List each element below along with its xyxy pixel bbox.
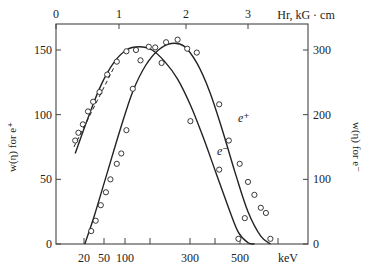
bottom-tick-label: 500	[231, 251, 249, 265]
curve-label: e⁺	[238, 111, 250, 125]
data-point	[263, 210, 268, 215]
data-point	[91, 99, 96, 104]
data-point	[153, 45, 158, 50]
left-tick-label: 150	[34, 43, 52, 57]
right-axis-label: w(η) for e⁻	[350, 122, 363, 172]
left-axis-label: w(η) for e⁺	[6, 122, 19, 172]
data-point	[188, 119, 193, 124]
data-point	[119, 151, 124, 156]
data-series: e⁺e⁻	[73, 37, 273, 244]
chart: 012320501003005000501001500100200300 Hr,…	[0, 0, 367, 274]
data-point	[114, 161, 119, 166]
right-tick-label: 200	[313, 108, 331, 122]
series-positron: e⁺	[85, 37, 273, 244]
data-point	[138, 58, 143, 63]
data-point	[146, 44, 151, 49]
top-tick-label: 1	[116, 7, 122, 21]
data-point	[130, 86, 135, 91]
left-tick-label: 100	[34, 108, 52, 122]
plot-border	[56, 24, 308, 244]
right-tick-label: 100	[313, 172, 331, 186]
data-point	[114, 59, 119, 64]
right-tick-label: 300	[313, 43, 331, 57]
data-point	[163, 40, 168, 45]
data-point	[175, 37, 180, 42]
left-tick-label: 0	[46, 237, 52, 251]
data-point	[76, 130, 81, 135]
top-axis-label: Hr, kG · cm	[277, 8, 335, 22]
data-point	[103, 190, 108, 195]
data-point	[237, 161, 242, 166]
bottom-tick-label: 20	[78, 251, 90, 265]
data-point	[124, 128, 129, 133]
top-tick-label: 0	[53, 7, 59, 21]
data-point	[242, 216, 247, 221]
bottom-tick-label: 50	[98, 251, 110, 265]
top-tick-label: 3	[245, 7, 251, 21]
data-point	[97, 89, 102, 94]
bottom-tick-label: 100	[116, 251, 134, 265]
data-point	[268, 236, 273, 241]
data-point	[258, 205, 263, 210]
data-point	[108, 177, 113, 182]
fit-curve	[85, 43, 271, 244]
top-tick-label: 2	[183, 7, 189, 21]
left-tick-label: 50	[40, 172, 52, 186]
data-point	[98, 203, 103, 208]
right-tick-label: 0	[313, 237, 319, 251]
data-point	[133, 47, 138, 52]
data-point	[185, 46, 190, 51]
series-electron: e⁻	[73, 44, 255, 244]
data-point	[159, 60, 164, 65]
data-point	[194, 50, 199, 55]
data-point	[217, 167, 222, 172]
data-point	[93, 218, 98, 223]
data-point	[89, 228, 94, 233]
data-point	[226, 138, 231, 143]
data-point	[124, 49, 129, 54]
data-point	[252, 192, 257, 197]
bottom-tick-label: 300	[181, 251, 199, 265]
curve-label: e⁻	[217, 144, 229, 158]
bottom-axis-label: keV	[278, 251, 298, 265]
data-point	[217, 102, 222, 107]
data-point	[85, 109, 90, 114]
plot-frame	[56, 24, 308, 244]
data-point	[245, 179, 250, 184]
data-point	[236, 236, 241, 241]
